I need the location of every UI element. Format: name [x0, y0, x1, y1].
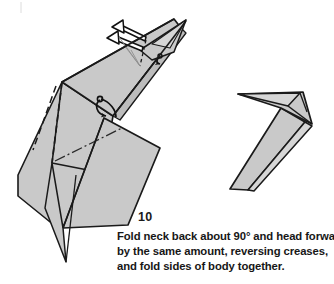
after-fold-model: [230, 92, 312, 191]
step-caption: Fold neck back about 90° and head forwar…: [117, 229, 332, 274]
before-fold-model: [18, 19, 186, 262]
step-number: 10: [138, 211, 152, 224]
after-body-panel: [230, 108, 305, 190]
origami-instruction-page: 10 Fold neck back about 90° and head for…: [0, 0, 334, 284]
caption-line-3: and fold sides of body together.: [117, 259, 332, 274]
caption-line-1: Fold neck back about 90° and head forwar…: [117, 229, 332, 244]
caption-line-2: by the same amount, reversing creases,: [117, 244, 332, 259]
